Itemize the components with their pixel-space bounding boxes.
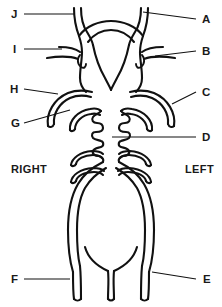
orientation-right-label: RIGHT [11,164,47,175]
vessel-branch-left-upper-lower [144,57,175,59]
vessel-branch-right-upper-lower [47,57,78,59]
vessel-limb-left-tip [141,299,148,301]
label-I: I [13,44,16,56]
vessel-branch-left-g-cap [147,129,152,131]
vessel-body-right-wall [80,52,86,92]
vessel-branch-left-c-cap [168,124,174,127]
orientation-left-label: LEFT [185,164,214,175]
vessel-branch-right-lower1-inner [76,155,102,164]
vessel-lower-loop-inner [77,168,106,266]
leader-line-C [172,92,196,104]
vessel-limb-right-outer [73,272,74,299]
label-B: B [202,46,211,58]
vessel-branch-left-lower1-inner [120,155,146,164]
leader-line-E [152,272,196,279]
vessel-branch-right-lower2-cap [71,181,76,183]
label-D: D [202,132,211,144]
vessel-branch-right-h-cap [48,124,54,127]
leader-line-B [155,51,196,56]
vessel-limb-left-outer [148,272,149,299]
vessel-branch-right-lower1-cap [71,164,76,166]
vessel-branch-left-lower1-cap [146,164,151,166]
label-A: A [202,14,211,26]
vessel-chamber-bottom-right [85,247,108,271]
label-H: H [10,84,19,96]
anatomy-diagram: J I H G F A B C D E RIGHT LEFT [0,0,222,307]
vessel-central-v-right [93,45,111,90]
vessel-limb-right-tip [74,299,81,301]
label-F: F [11,274,18,286]
vessel-branch-left-upper [142,47,163,52]
vessel-limb-right-inner [80,266,81,299]
vessel-limb-center-tip [108,299,114,301]
vessel-branch-left-lower2-cap [146,181,151,183]
vessel-branch-right-g-inner [75,114,100,129]
leader-line-A [143,12,196,19]
leader-line-H [24,89,58,94]
vessel-arch-inner [88,30,134,42]
vessel-lower-loop-inner-mirror [116,168,145,266]
diagram-drawing [0,0,222,307]
vessel-central-v-left [111,45,129,90]
vessel-chamber-bottom-left [114,247,137,271]
label-G: G [11,118,20,130]
vessel-branch-left-g-inner [122,114,147,129]
vessel-limb-left-inner [141,266,142,299]
vessel-body-left-wall [136,52,142,92]
vessel-branch-right-g-cap [70,129,75,131]
label-C: C [202,87,211,99]
vessel-branch-right-upper [59,47,80,52]
label-J: J [11,9,18,21]
label-E: E [203,274,211,286]
